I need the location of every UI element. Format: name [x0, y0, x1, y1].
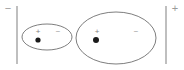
small-atom-group: + −	[22, 24, 72, 50]
small-atom-nucleus-dot	[35, 37, 40, 42]
large-atom-minus-label: −	[134, 27, 139, 36]
positive-plate-label: +	[172, 2, 178, 14]
small-atom-plus-label: +	[36, 27, 41, 36]
negative-plate-label: −	[5, 2, 11, 14]
polarization-diagram: − + + − + −	[0, 0, 184, 70]
large-atom-outline	[76, 12, 156, 64]
small-atom-outline	[22, 24, 72, 50]
diagram-canvas: − + + − + −	[0, 0, 184, 70]
large-atom-plus-label: +	[95, 27, 100, 36]
large-atom-nucleus-dot	[93, 37, 99, 43]
large-atom-group: + −	[76, 12, 156, 64]
small-atom-minus-label: −	[56, 27, 61, 36]
